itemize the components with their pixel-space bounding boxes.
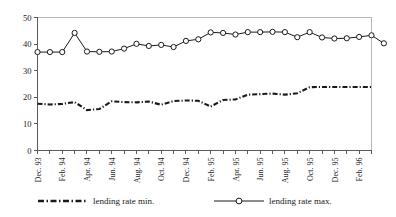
x-tick-label: Dec. 93 [34,158,43,183]
data-point-marker [282,30,287,35]
data-point-marker [233,32,238,37]
y-tick-label: 30 [23,66,32,76]
data-point-marker [307,30,312,35]
data-point-marker [109,49,114,54]
x-axis-ticks [38,151,372,155]
data-point-marker [357,34,362,39]
data-point-marker [220,30,225,35]
x-tick-label: Jun. 95 [256,158,265,181]
y-tick-label: 40 [23,39,32,49]
x-tick-label: Apr. 94 [83,158,92,182]
chart-canvas: 01020304050 Dec. 93Feb. 94Apr. 94Jun. 94… [0,0,396,217]
data-point-marker [47,49,52,54]
data-point-marker [84,49,89,54]
data-point-marker [270,29,275,34]
x-tick-label: Apr. 95 [232,158,241,182]
data-point-marker [72,30,77,35]
x-tick-label: Dec. 94 [182,158,191,183]
data-point-marker [60,49,65,54]
x-tick-label: Aug. 94 [133,158,142,184]
x-tick-label: Oct. 94 [157,158,166,182]
data-point-marker [319,35,324,40]
y-tick-label: 50 [23,13,32,23]
series-lending-rate-min [38,87,372,110]
legend-label-lending-rate-max: lending rate max. [269,196,332,206]
data-point-marker [159,42,164,47]
data-point-marker [35,49,40,54]
data-point-marker [196,37,201,42]
y-tick-label: 10 [23,119,32,129]
x-tick-label: Dec. 95 [331,158,340,183]
data-point-marker [332,36,337,41]
data-point-marker [381,41,386,46]
y-axis-ticks [34,18,38,151]
data-point-marker [208,30,213,35]
x-axis-tick-labels: Dec. 93Feb. 94Apr. 94Jun. 94Aug. 94Oct. … [34,158,365,184]
x-tick-label: Aug. 95 [281,158,290,184]
data-point-marker [344,36,349,41]
data-point-marker [258,30,263,35]
data-point-marker [171,44,176,49]
data-point-marker [121,46,126,51]
y-axis-tick-labels: 01020304050 [23,13,32,156]
data-point-marker [97,49,102,54]
lending-rate-chart: 01020304050 Dec. 93Feb. 94Apr. 94Jun. 94… [0,0,396,217]
series-lending-rate-max [35,29,387,54]
line-lending-rate-min [38,87,372,110]
data-point-marker [134,41,139,46]
data-point-marker [183,38,188,43]
x-tick-label: Jun. 94 [108,158,117,181]
data-point-marker [245,30,250,35]
legend-marker-circle [236,198,242,204]
data-point-marker [295,35,300,40]
chart-legend: lending rate min.lending rate max. [38,196,332,206]
data-point-marker [146,43,151,48]
x-tick-label: Feb. 96 [355,158,364,182]
x-tick-label: Feb. 95 [207,158,216,182]
y-tick-label: 20 [23,92,32,102]
legend-label-lending-rate-min: lending rate min. [93,196,154,206]
y-tick-label: 0 [27,146,31,156]
x-tick-label: Oct. 95 [306,158,315,182]
x-tick-label: Feb. 94 [58,158,67,182]
data-point-marker [369,33,374,38]
